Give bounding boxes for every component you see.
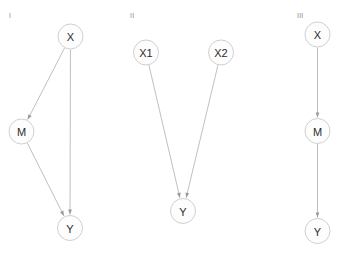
node-Y[interactable]: Y [58, 216, 83, 241]
node-label: X1 [139, 47, 152, 59]
panel-label: I [9, 12, 11, 19]
node-label: X2 [214, 47, 227, 59]
node-label: X [67, 31, 75, 43]
node-label: Y [179, 206, 187, 218]
edge-X1-to-Y [149, 65, 180, 198]
panel-2: IIX1X2Y [130, 12, 234, 224]
panel-label: III [297, 12, 303, 19]
panel-1: IXMY [9, 12, 83, 241]
node-M[interactable]: M [9, 119, 34, 144]
dag-figure: IXMYIIX1X2YIIIXMY [0, 0, 348, 253]
node-X[interactable]: X [58, 24, 83, 49]
node-label: M [313, 126, 322, 138]
edge-X2-to-Y [186, 65, 218, 198]
figure-canvas: IXMYIIX1X2YIIIXMY [0, 0, 348, 253]
edges-group [149, 65, 218, 198]
node-label: X [314, 29, 322, 41]
node-X2[interactable]: X2 [209, 40, 234, 65]
node-label: Y [66, 223, 74, 235]
panel-label: II [130, 12, 134, 19]
node-label: M [17, 126, 26, 138]
node-Y[interactable]: Y [171, 199, 196, 224]
arrowhead-icon [316, 213, 320, 218]
node-X1[interactable]: X1 [134, 40, 159, 65]
panels-layer: IXMYIIX1X2YIIIXMY [9, 12, 330, 244]
node-Y[interactable]: Y [305, 219, 330, 244]
node-M[interactable]: M [305, 119, 330, 144]
arrowhead-icon [60, 211, 64, 216]
arrowhead-icon [28, 114, 32, 119]
arrowhead-icon [316, 113, 320, 118]
arrowhead-icon [68, 209, 72, 214]
panel-3: IIIXMY [297, 12, 330, 244]
node-X[interactable]: X [305, 22, 330, 47]
edge-M-to-Y [27, 143, 64, 216]
node-label: Y [314, 226, 322, 238]
edge-X-to-M [28, 48, 65, 119]
